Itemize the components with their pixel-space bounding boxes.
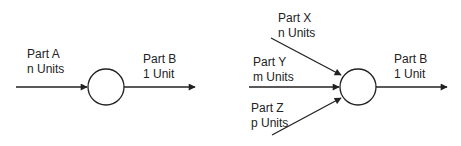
label-part-z: Part Z xyxy=(251,101,284,115)
label-part-x-qty: n Units xyxy=(278,26,315,40)
label-part-x: Part X xyxy=(278,11,311,25)
label-part-b: Part B xyxy=(143,52,176,66)
label-part-y: Part Y xyxy=(253,55,286,69)
assembly-node xyxy=(88,69,124,105)
label-part-z-qty: p Units xyxy=(251,116,288,130)
multi-input-diagram: Part X n Units Part Y m Units Part Z p U… xyxy=(249,11,447,135)
assembly-diagrams: Part A n Units Part B 1 Unit Part X n Un… xyxy=(0,0,461,146)
single-input-diagram: Part A n Units Part B 1 Unit xyxy=(16,47,195,105)
label-part-y-qty: m Units xyxy=(253,70,294,84)
label-part-a-qty: n Units xyxy=(27,62,64,76)
label-part-b-qty: 1 Unit xyxy=(394,67,426,81)
assembly-node xyxy=(340,69,376,105)
label-part-b: Part B xyxy=(394,52,427,66)
label-part-b-qty: 1 Unit xyxy=(143,67,175,81)
label-part-a: Part A xyxy=(27,47,60,61)
